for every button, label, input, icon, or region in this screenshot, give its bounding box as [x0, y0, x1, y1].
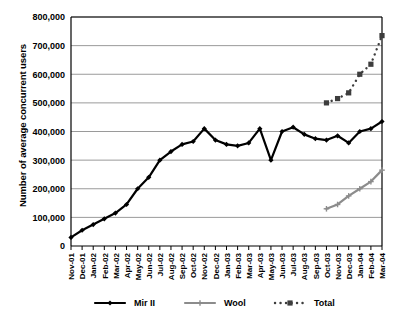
x-axis-tick-label: Sep-02	[178, 252, 187, 279]
data-point-marker	[324, 100, 329, 105]
data-point-marker	[287, 300, 292, 305]
chart-figure: Number of average concurrent users 0100,…	[0, 0, 403, 321]
x-axis-tick-label: Aug-02	[167, 252, 176, 280]
x-axis-tick-label: Jan-03	[223, 252, 232, 278]
series-line	[326, 170, 382, 209]
x-axis-tick-label: Oct-02	[189, 252, 198, 277]
y-axis-tick-label: 700,000	[32, 41, 65, 51]
x-axis-tick-label: Jan-04	[356, 252, 365, 278]
y-axis-tick-label: 300,000	[32, 156, 65, 166]
data-point-marker	[346, 90, 351, 95]
data-point-marker	[235, 143, 240, 148]
x-axis-tick-label: May-03	[267, 252, 276, 280]
x-axis-tick-label: Sep-03	[312, 252, 321, 279]
x-axis-tick-label: Jun-02	[145, 252, 154, 278]
y-axis-tick-label: 200,000	[32, 184, 65, 194]
x-axis-tick-label: Apr-02	[123, 252, 132, 278]
x-axis-tick-label: Jul-03	[289, 252, 298, 276]
y-axis-tick-label: 600,000	[32, 70, 65, 80]
x-axis-tick-label: Dec-03	[345, 252, 354, 279]
x-axis-tick-label: Jul-02	[156, 252, 165, 276]
x-axis-tick-label: Dec-01	[78, 252, 87, 279]
y-axis-tick-label: 0	[60, 241, 65, 251]
chart-legend: Mir IIWoolTotal	[95, 298, 335, 308]
x-axis-tick-label: Dec-02	[212, 252, 221, 279]
x-axis-tick-label: Mar-03	[245, 252, 254, 278]
data-point-marker	[379, 33, 384, 38]
data-point-marker	[107, 300, 112, 305]
x-axis-tick-label: Jun-03	[278, 252, 287, 278]
x-axis-tick-label: Aug-03	[300, 252, 309, 280]
x-axis-tick-label: Feb-03	[234, 252, 243, 278]
data-point-marker	[335, 96, 340, 101]
series-line	[71, 121, 382, 237]
legend-label: Wool	[224, 298, 246, 308]
series-mir-ii	[68, 119, 384, 240]
legend-label: Mir II	[134, 298, 155, 308]
x-axis-tick-label: Apr-03	[256, 252, 265, 278]
x-axis-tick-label: Nov-03	[334, 252, 343, 279]
y-axis-tick-label: 100,000	[32, 213, 65, 223]
x-axis-tick-label: Nov-01	[67, 252, 76, 279]
x-axis-tick-label: Nov-02	[200, 252, 209, 279]
x-axis-tick-label: Mar-04	[378, 252, 387, 278]
y-axis-tick-label: 500,000	[32, 98, 65, 108]
x-axis-tick-label: Feb-04	[367, 252, 376, 278]
chart-plot-area: 0100,000200,000300,000400,000500,000600,…	[0, 0, 403, 321]
series-total	[324, 33, 385, 105]
x-axis-tick-label: Jan-02	[89, 252, 98, 278]
x-axis-tick-label: Feb-02	[101, 252, 110, 278]
y-axis-tick-label: 800,000	[32, 12, 65, 22]
data-point-marker	[368, 62, 373, 67]
x-axis-tick-label: Mar-02	[112, 252, 121, 278]
x-axis-tick-label: May-02	[134, 252, 143, 280]
data-point-marker	[357, 72, 362, 77]
legend-label: Total	[314, 298, 335, 308]
series-wool	[324, 167, 385, 211]
y-axis-tick-label: 400,000	[32, 127, 65, 137]
x-axis-tick-label: Oct-03	[323, 252, 332, 277]
